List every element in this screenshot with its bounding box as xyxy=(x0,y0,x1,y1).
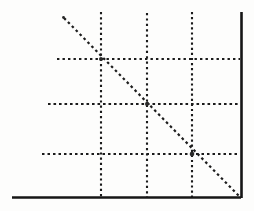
intersection-blob-2 xyxy=(145,102,149,106)
intersection-blob-3 xyxy=(190,152,195,157)
line-graph-svg xyxy=(0,0,254,211)
figure-background xyxy=(0,0,254,211)
figure-container: Dotted line graph with grid Hand-drawn /… xyxy=(0,0,254,211)
line-start-speck xyxy=(62,16,65,19)
intersection-blob-1 xyxy=(99,57,103,61)
